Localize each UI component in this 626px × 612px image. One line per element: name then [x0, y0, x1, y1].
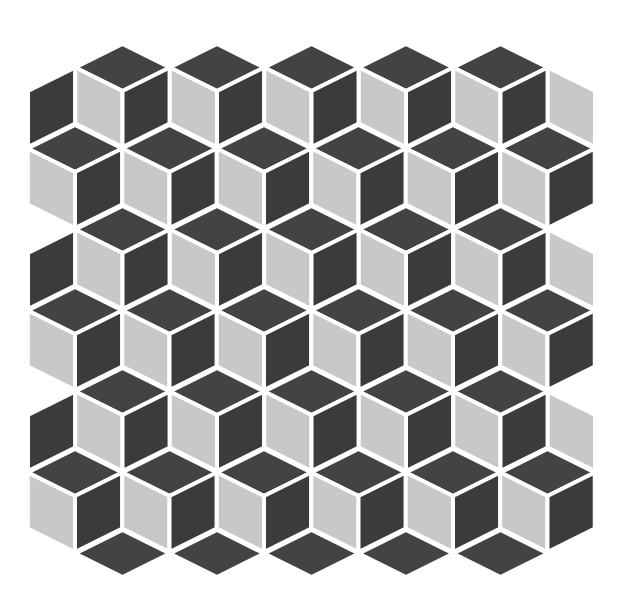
- tumbling-blocks-mosaic: [0, 0, 626, 612]
- tile-group: [28, 44, 595, 577]
- mosaic-photo: Tumbling blocks tile mosaic: [0, 0, 626, 612]
